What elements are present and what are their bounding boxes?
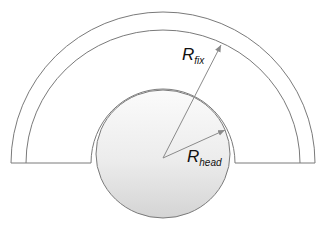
r-head-subscript: head bbox=[199, 157, 221, 168]
r-fix-subscript: fix bbox=[194, 55, 204, 66]
r-head-symbol: R bbox=[187, 147, 199, 166]
shell-diagram bbox=[0, 0, 325, 228]
r-fix-symbol: R bbox=[182, 45, 194, 64]
r-head-label: Rhead bbox=[187, 147, 222, 167]
r-fix-label: Rfix bbox=[182, 45, 204, 65]
